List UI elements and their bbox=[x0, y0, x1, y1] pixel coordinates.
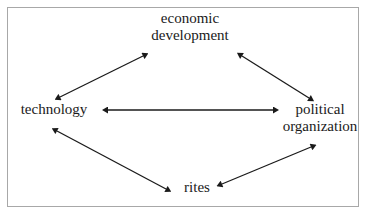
node-economic-development-line1: economic bbox=[128, 10, 252, 27]
arrow-rites-political-organization bbox=[222, 147, 311, 184]
diagram-screenshot: economic development technology politica… bbox=[0, 0, 367, 216]
node-economic-development: economic development bbox=[128, 10, 252, 44]
node-technology-line1: technology bbox=[6, 101, 102, 118]
node-economic-development-line2: development bbox=[128, 27, 252, 44]
arrow-technology-rites bbox=[57, 131, 166, 189]
node-political-organization-line2: organization bbox=[276, 118, 364, 135]
node-political-organization-line1: political bbox=[276, 101, 364, 118]
arrow-economic-development-political-organization bbox=[242, 56, 309, 98]
arrow-technology-economic-development bbox=[60, 56, 143, 97]
node-rites-line1: rites bbox=[172, 179, 222, 196]
node-technology: technology bbox=[6, 101, 102, 118]
node-rites: rites bbox=[172, 179, 222, 196]
node-political-organization: political organization bbox=[276, 101, 364, 135]
